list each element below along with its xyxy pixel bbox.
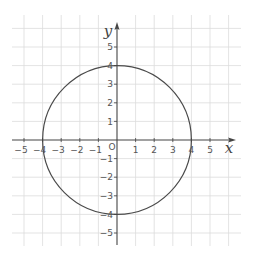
y-axis-label: y	[103, 22, 113, 40]
x-tick-label: 1	[133, 145, 139, 155]
y-tick-label: 2	[107, 98, 113, 108]
x-tick-label: 2	[151, 145, 157, 155]
axes	[12, 22, 236, 245]
x-tick-label: −4	[33, 145, 47, 155]
y-tick-label: 5	[107, 42, 113, 52]
y-tick-label: −3	[100, 191, 113, 201]
y-tick-label: −1	[100, 154, 113, 164]
x-tick-label: −5	[14, 145, 27, 155]
x-tick-label: −3	[52, 145, 65, 155]
y-tick-label: 1	[107, 117, 113, 127]
y-tick-label: −5	[100, 228, 113, 238]
y-tick-label: 4	[107, 61, 113, 71]
grid-lines	[12, 15, 241, 246]
x-tick-label: 3	[170, 145, 176, 155]
origin-label: O	[108, 142, 115, 152]
x-axis-label: x	[225, 139, 234, 157]
y-tick-label: −4	[100, 210, 114, 220]
x-tick-label: 4	[189, 145, 195, 155]
coordinate-plane: −5−4−3−2−112345−5−4−3−2−112345 x y O	[0, 0, 254, 254]
x-tick-label: 5	[207, 145, 213, 155]
y-tick-label: 3	[107, 79, 113, 89]
y-tick-label: −2	[100, 172, 113, 182]
x-tick-label: −2	[70, 145, 83, 155]
